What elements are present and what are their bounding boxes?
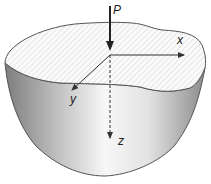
label-load-p: P bbox=[113, 3, 121, 17]
label-x-axis: x bbox=[176, 33, 184, 47]
half-space-diagram: P x y z bbox=[0, 0, 211, 184]
diagram-canvas: P x y z bbox=[0, 0, 211, 184]
label-y-axis: y bbox=[69, 92, 77, 106]
label-z-axis: z bbox=[117, 134, 124, 148]
